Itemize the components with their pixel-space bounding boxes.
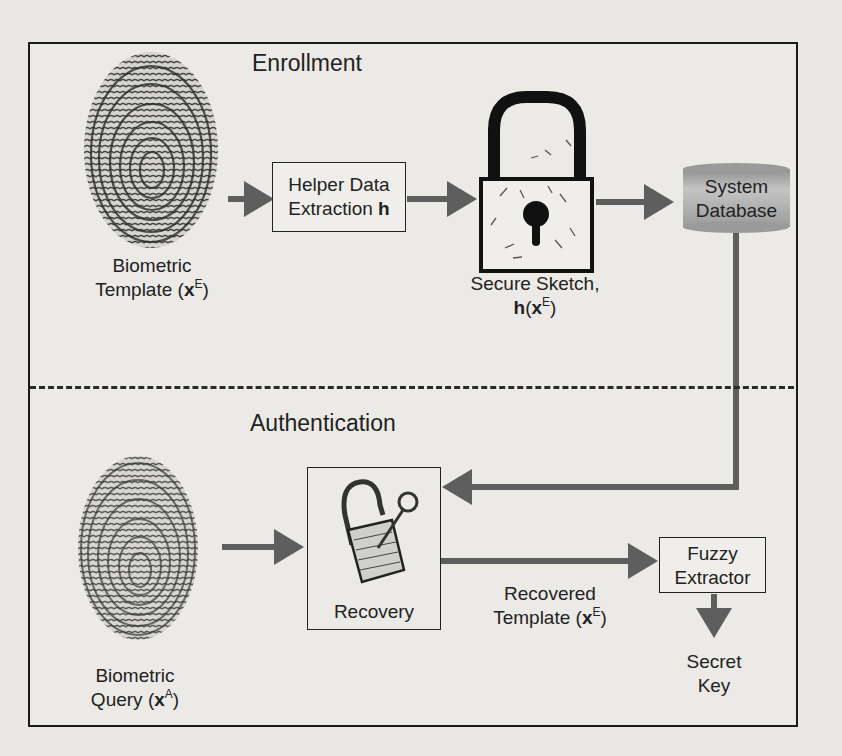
recovered-template-label: Recovered Template (xE) xyxy=(480,582,620,630)
label-line: Fuzzy xyxy=(660,542,765,566)
biometric-template-label: Biometric Template (xE) xyxy=(72,254,232,302)
label-line: System xyxy=(683,175,790,199)
system-database-label: System Database xyxy=(683,175,790,223)
recovery-label: Recovery xyxy=(307,600,441,624)
label-line: Query (xA) xyxy=(65,688,205,712)
label-line: h(xE) xyxy=(450,296,620,320)
label-line: Biometric xyxy=(72,254,232,278)
fingerprint-template-icon xyxy=(84,52,218,248)
label-line: Extractor xyxy=(660,566,765,590)
label-line: Key xyxy=(674,674,754,698)
label-line: Secure Sketch, xyxy=(450,272,620,296)
label-line: Helper Data xyxy=(273,173,405,197)
secure-sketch-label: Secure Sketch, h(xE) xyxy=(450,272,620,320)
label-line: Extraction h xyxy=(273,197,405,221)
label-line: Database xyxy=(683,199,790,223)
section-title-authentication: Authentication xyxy=(250,410,396,437)
label-line: Recovered xyxy=(480,582,620,606)
fuzzy-extractor-box: Fuzzy Extractor xyxy=(659,537,766,593)
helper-data-extraction-box: Helper Data Extraction h xyxy=(272,162,406,232)
label-line: Secret xyxy=(674,650,754,674)
biometric-query-label: Biometric Query (xA) xyxy=(65,664,205,712)
diagram-connectors xyxy=(0,0,842,756)
padlock-closed-icon xyxy=(481,97,592,271)
section-title-enrollment: Enrollment xyxy=(252,50,362,77)
label-line: Template (xE) xyxy=(72,278,232,302)
secret-key-label: Secret Key xyxy=(674,650,754,698)
fingerprint-query-icon xyxy=(78,456,198,640)
section-divider xyxy=(30,386,794,389)
label-line: Template (xE) xyxy=(480,606,620,630)
label-line: Biometric xyxy=(65,664,205,688)
